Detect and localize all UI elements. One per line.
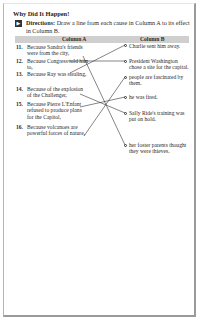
matching-lines [0,0,201,322]
match-line-16 [84,77,125,136]
match-line-15 [80,97,125,107]
match-line-13 [70,45,125,73]
match-line-11 [83,56,125,145]
